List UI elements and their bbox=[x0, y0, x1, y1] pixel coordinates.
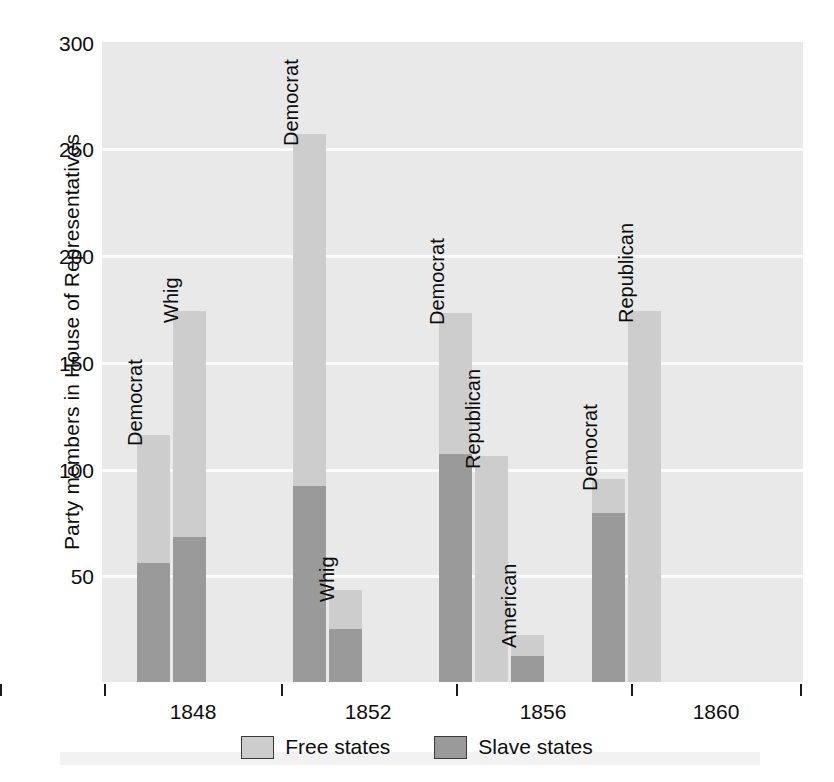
bar-segment-free bbox=[173, 311, 206, 537]
bar-segment-slave bbox=[173, 537, 206, 682]
bar-segment-slave bbox=[439, 454, 472, 682]
bar-segment-free bbox=[137, 435, 170, 563]
bar-label-1848-whig: Whig bbox=[160, 277, 183, 323]
y-axis-tick-labels: 300 250 200 150 100 50 bbox=[36, 0, 94, 782]
chart-legend: Free states Slave states bbox=[0, 735, 834, 759]
y-tick-250: 250 bbox=[38, 138, 94, 162]
bar-1860-republican[interactable] bbox=[628, 311, 661, 682]
x-tick-label-1852: 1852 bbox=[345, 700, 392, 724]
legend-item-free-states[interactable]: Free states bbox=[241, 735, 390, 759]
bar-segment-free bbox=[293, 134, 326, 486]
gridline-200 bbox=[102, 255, 803, 258]
legend-item-slave-states[interactable]: Slave states bbox=[434, 735, 592, 759]
bar-1860-democrat[interactable] bbox=[592, 479, 625, 682]
bar-label-1860-republican: Republican bbox=[615, 223, 638, 323]
plot-area: Democrat Whig Democrat Whig Democrat Rep… bbox=[102, 42, 803, 682]
x-tick-mark bbox=[631, 684, 633, 696]
legend-label-free-states: Free states bbox=[285, 735, 390, 759]
x-tick-mark bbox=[104, 684, 106, 696]
chart-figure: Party members in House of Representative… bbox=[0, 0, 834, 782]
bar-label-1860-democrat: Democrat bbox=[579, 404, 602, 491]
bar-label-1852-whig: Whig bbox=[316, 556, 339, 602]
bar-segment-slave bbox=[592, 513, 625, 682]
gridline-250 bbox=[102, 148, 803, 151]
y-tick-200: 200 bbox=[38, 245, 94, 269]
bar-label-1852-democrat: Democrat bbox=[280, 59, 303, 146]
bar-segment-slave bbox=[511, 656, 544, 682]
y-tick-300: 300 bbox=[38, 32, 94, 56]
bar-label-1856-republican: Republican bbox=[462, 369, 485, 469]
x-tick-mark bbox=[281, 684, 283, 696]
bar-label-1856-american: American bbox=[498, 564, 521, 648]
x-tick-label-1860: 1860 bbox=[693, 700, 740, 724]
x-tick-label-1848: 1848 bbox=[170, 700, 217, 724]
bar-1848-whig[interactable] bbox=[173, 311, 206, 682]
bar-label-1848-democrat: Democrat bbox=[124, 359, 147, 446]
bar-1852-whig[interactable] bbox=[329, 590, 362, 682]
y-tick-150: 150 bbox=[38, 352, 94, 376]
bar-label-1856-democrat: Democrat bbox=[426, 238, 449, 325]
legend-swatch-free-states bbox=[241, 736, 274, 759]
bar-segment-slave bbox=[137, 563, 170, 682]
x-axis-line bbox=[102, 682, 803, 684]
x-tick-mark bbox=[800, 684, 802, 696]
bar-1848-democrat[interactable] bbox=[137, 435, 170, 682]
bar-segment-free bbox=[628, 311, 661, 682]
x-tick-label-1856: 1856 bbox=[520, 700, 567, 724]
bar-segment-slave bbox=[329, 629, 362, 682]
legend-label-slave-states: Slave states bbox=[478, 735, 592, 759]
x-tick-mark bbox=[456, 684, 458, 696]
y-tick-100: 100 bbox=[38, 459, 94, 483]
legend-swatch-slave-states bbox=[434, 736, 467, 759]
y-tick-50: 50 bbox=[38, 565, 94, 589]
